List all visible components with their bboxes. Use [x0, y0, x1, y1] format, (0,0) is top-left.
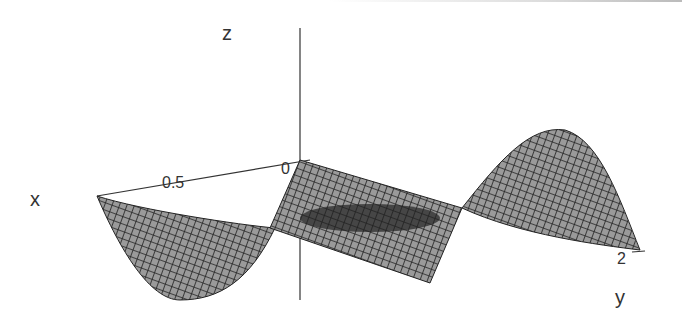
x-tick-0: 0 [281, 160, 290, 178]
surface-plot [0, 0, 682, 329]
z-axis-label: z [222, 22, 232, 45]
y-tick-2: 2 [617, 250, 626, 268]
y-axis-label: y [615, 286, 625, 309]
x-tick-0-5: 0.5 [162, 174, 184, 192]
x-axis-label: x [30, 188, 40, 211]
x-axis [97, 160, 310, 196]
